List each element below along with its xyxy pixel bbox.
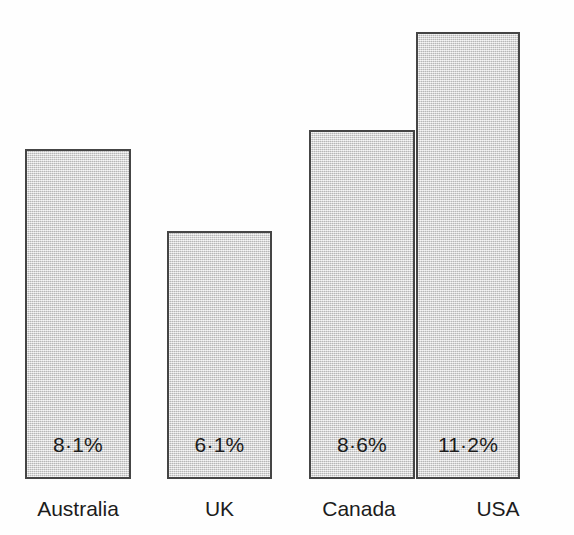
bar-chart-figure: 8·1% 6·1% 8·6% 11·2% Australia UK Canada… (0, 0, 574, 535)
category-label-australia: Australia (25, 497, 131, 521)
bar-australia: 8·1% (25, 149, 131, 479)
bar-group-canada: 8·6% (309, 130, 415, 479)
category-label-uk: UK (167, 497, 272, 521)
bar-canada: 8·6% (309, 130, 415, 479)
bar-group-usa: 11·2% (416, 32, 520, 479)
bar-group-uk: 6·1% (167, 231, 272, 479)
category-label-canada: Canada (306, 497, 412, 521)
plot-area: 8·1% 6·1% 8·6% 11·2% (0, 0, 574, 479)
bar-value-canada: 8·6% (311, 433, 413, 457)
bar-uk: 6·1% (167, 231, 272, 479)
category-label-usa: USA (446, 497, 550, 521)
bar-value-usa: 11·2% (418, 433, 518, 457)
bar-usa: 11·2% (416, 32, 520, 479)
bar-value-uk: 6·1% (169, 433, 270, 457)
bar-value-australia: 8·1% (27, 433, 129, 457)
bar-group-australia: 8·1% (25, 149, 131, 479)
